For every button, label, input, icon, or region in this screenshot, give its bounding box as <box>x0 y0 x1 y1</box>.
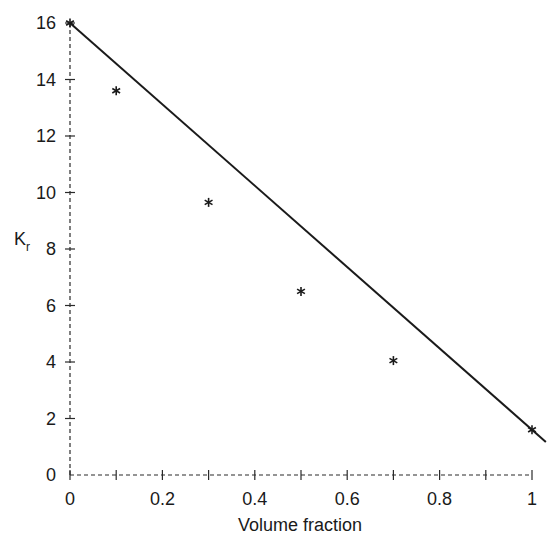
plot-area: 00.20.40.60.81 0246810121416 Volume frac… <box>0 0 554 552</box>
y-axis-ticks: 0246810121416 <box>36 13 75 485</box>
x-axis-label: Volume fraction <box>238 515 362 535</box>
y-tick-label: 0 <box>46 465 56 485</box>
y-tick-label: 12 <box>36 126 56 146</box>
y-axis-label: Kr <box>14 229 30 254</box>
x-tick-label: 0.2 <box>150 489 175 509</box>
y-tick-label: 14 <box>36 70 56 90</box>
y-tick-label: 4 <box>46 352 56 372</box>
x-tick-label: 0 <box>65 489 75 509</box>
y-tick-label: 10 <box>36 183 56 203</box>
x-axis-ticks: 00.20.40.60.81 <box>65 470 537 509</box>
data-point-asterisk <box>390 356 398 365</box>
y-tick-label: 2 <box>46 409 56 429</box>
axes <box>70 23 532 475</box>
fit-line <box>70 23 546 442</box>
x-tick-label: 0.4 <box>242 489 267 509</box>
y-axis-label-subscript: r <box>26 240 30 254</box>
y-tick-label: 8 <box>46 239 56 259</box>
chart: 00.20.40.60.81 0246810121416 Volume frac… <box>0 0 554 552</box>
y-tick-label: 16 <box>36 13 56 33</box>
data-series <box>66 19 546 442</box>
x-tick-label: 0.8 <box>427 489 452 509</box>
x-tick-label: 1 <box>527 489 537 509</box>
data-point-asterisk <box>205 198 213 207</box>
y-tick-label: 6 <box>46 296 56 316</box>
data-point-asterisk <box>112 86 120 95</box>
data-point-asterisk <box>297 287 305 296</box>
y-axis-label-main: K <box>14 229 26 249</box>
x-tick-label: 0.6 <box>335 489 360 509</box>
